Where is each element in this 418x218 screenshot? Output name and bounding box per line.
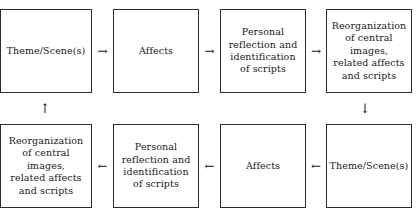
node-personal-reflection-bottom: Personal reflection and identification o… [113,124,199,208]
arrow-down-right-icon: ↓ [357,92,373,124]
node-label: Affects [246,160,280,172]
flow-row-top: Theme/Scene(s) → Affects → Personal refl… [0,9,418,93]
node-theme-scenes-top: Theme/Scene(s) [0,9,92,93]
node-label: Affects [139,45,173,57]
flow-row-bottom: Reorganization of central images, relate… [0,124,418,208]
arrow-reflection-to-reorg-bottom-icon: ← [92,124,113,208]
arrow-up-left-icon: ↑ [37,92,53,124]
node-reorganization-top: Reorganization of central images, relate… [326,9,412,93]
node-label: Personal reflection and identification o… [229,26,298,76]
node-label: Reorganization of central images, relate… [332,20,407,82]
node-affects-top: Affects [113,9,199,93]
node-personal-reflection-top: Personal reflection and identification o… [220,9,306,93]
node-label: Theme/Scene(s) [330,160,409,172]
arrow-theme-to-affects-bottom-icon: ← [306,124,326,208]
arrow-affects-to-reflection-bottom-icon: ← [199,124,220,208]
arrow-affects-to-reflection-top-icon: → [199,9,220,93]
flowchart-diagram: Theme/Scene(s) → Affects → Personal refl… [0,0,418,218]
node-theme-scenes-bottom: Theme/Scene(s) [326,124,412,208]
node-label: Personal reflection and identification o… [122,141,191,191]
arrow-theme-to-affects-top-icon: → [92,9,113,93]
node-label: Theme/Scene(s) [7,45,86,57]
node-reorganization-bottom: Reorganization of central images, relate… [0,124,92,208]
node-affects-bottom: Affects [220,124,306,208]
node-label: Reorganization of central images, relate… [9,135,84,197]
arrow-reflection-to-reorg-top-icon: → [306,9,326,93]
